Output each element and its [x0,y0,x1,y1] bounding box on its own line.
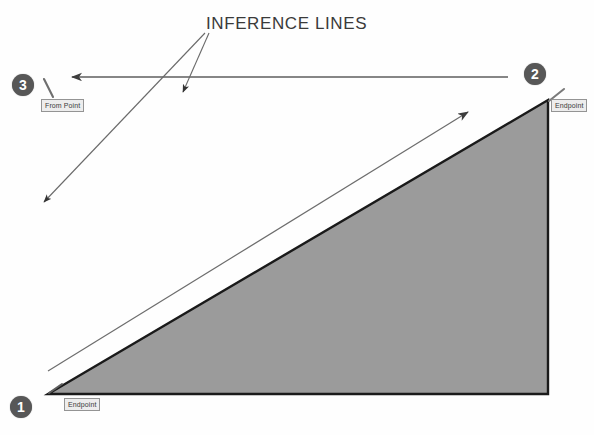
tooltip-from-point: From Point [41,99,84,112]
diagram-canvas: INFERENCE LINES 3 2 1 From Point Endpoin… [0,0,594,435]
cursor-pencil-from-point [44,79,53,97]
diagram-vector-scene [0,0,594,435]
leader-line-long [44,33,205,202]
step-marker-2[interactable]: 2 [524,63,546,85]
step-marker-1[interactable]: 1 [10,396,32,418]
step-marker-3[interactable]: 3 [12,74,34,96]
annotation-title: INFERENCE LINES [206,14,367,34]
tooltip-endpoint-bottom: Endpoint [64,398,100,411]
tooltip-endpoint-top: Endpoint [551,99,587,112]
shaded-triangle [48,100,548,394]
